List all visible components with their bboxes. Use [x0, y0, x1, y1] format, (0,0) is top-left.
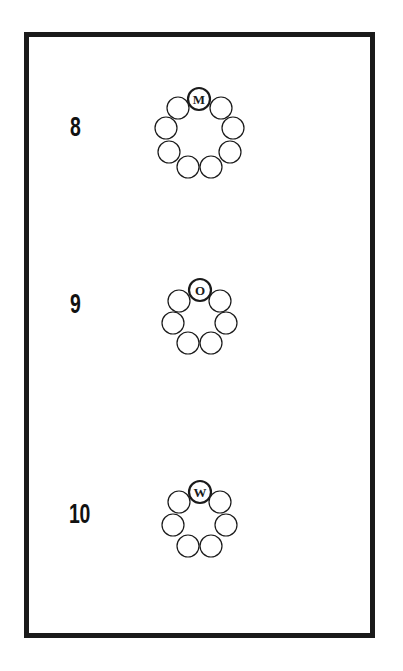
letter-circle-empty [158, 141, 180, 163]
letter-circle-empty [200, 535, 222, 557]
letter-circle-empty [162, 312, 184, 334]
letter-circle-empty [177, 156, 199, 178]
letter-circle-empty [162, 514, 184, 536]
letter-circle-empty [155, 117, 177, 139]
letter-circle-empty [222, 117, 244, 139]
letter-circle-empty [200, 156, 222, 178]
given-letter: M [193, 92, 205, 107]
letter-circle-empty [177, 332, 199, 354]
letter-circle-empty [177, 535, 199, 557]
circle-rings-layer: M O W [0, 0, 403, 671]
letter-ring-9: O [162, 279, 237, 354]
letter-circle-empty [215, 312, 237, 334]
letter-ring-10: W [162, 481, 237, 557]
letter-circle-empty [219, 141, 241, 163]
letter-circle-empty [210, 97, 232, 119]
letter-ring-8: M [155, 88, 244, 178]
given-letter: W [194, 485, 207, 500]
letter-circle-empty [168, 290, 190, 312]
given-letter: O [195, 283, 205, 298]
letter-circle-empty [168, 491, 190, 513]
letter-circle-empty [200, 332, 222, 354]
letter-circle-empty [209, 491, 231, 513]
letter-circle-empty [209, 290, 231, 312]
letter-circle-empty [215, 514, 237, 536]
letter-circle-empty [167, 97, 189, 119]
